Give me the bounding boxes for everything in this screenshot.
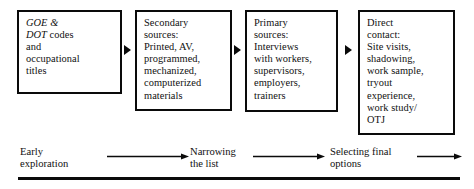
- arrow-right-icon: [417, 152, 462, 161]
- stage-label-narrowing-the-list: Narrowing the list: [190, 146, 236, 170]
- triangle-right-icon: [124, 45, 131, 55]
- flow-diagram: GOE & DOT codes and occupational titles …: [0, 0, 474, 189]
- stage-label-early-exploration: Early exploration: [20, 146, 68, 170]
- arrow-right-icon: [253, 152, 325, 161]
- stage-label-selecting-final-options: Selecting final options: [330, 146, 391, 170]
- baseline-rule: [18, 177, 460, 180]
- flow-box-secondary-sources: Secondary sources: Printed, AV, programm…: [135, 10, 232, 111]
- flow-box-primary-sources: Primary sources: Interviews with workers…: [245, 10, 338, 112]
- flow-box-direct-contact: Direct contact: Site visits, shadowing, …: [358, 10, 455, 135]
- flow-box-goe-dot-codes-text: GOE & DOT codes and occupational titles: [26, 17, 114, 77]
- flow-box-direct-contact-text: Direct contact: Site visits, shadowing, …: [367, 17, 447, 126]
- flow-box-secondary-sources-text: Secondary sources: Printed, AV, programm…: [144, 17, 224, 102]
- flow-box-goe-dot-codes: GOE & DOT codes and occupational titles: [17, 10, 122, 94]
- triangle-right-icon: [345, 45, 352, 55]
- arrow-right-icon: [107, 152, 189, 161]
- flow-box-primary-sources-text: Primary sources: Interviews with workers…: [254, 17, 330, 102]
- triangle-right-icon: [234, 45, 241, 55]
